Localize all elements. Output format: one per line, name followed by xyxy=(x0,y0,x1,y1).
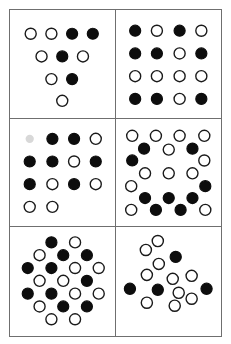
open-dot xyxy=(69,156,80,167)
open-dot xyxy=(46,314,57,325)
open-dot xyxy=(163,167,174,178)
open-dot xyxy=(169,300,180,311)
filled-dot xyxy=(195,48,206,59)
figure-root xyxy=(0,0,231,344)
filled-dot xyxy=(126,155,137,166)
open-dot xyxy=(139,167,150,178)
panel-top-right[interactable] xyxy=(116,10,222,119)
filled-dot xyxy=(129,25,140,36)
filled-dot xyxy=(22,288,33,299)
filled-dot xyxy=(81,250,92,261)
filled-dot xyxy=(87,28,98,39)
filled-dot xyxy=(46,237,57,248)
filled-dot xyxy=(139,192,150,203)
open-dot xyxy=(173,288,184,299)
open-dot xyxy=(198,130,209,141)
open-dot xyxy=(174,93,185,104)
panel-top-right-dots xyxy=(116,10,222,118)
filled-dot xyxy=(24,156,35,167)
filled-dot xyxy=(195,93,206,104)
open-dot xyxy=(195,25,206,36)
open-dot xyxy=(36,51,47,62)
filled-dot xyxy=(199,180,210,191)
open-dot xyxy=(46,74,57,85)
open-dot xyxy=(141,297,152,308)
filled-dot xyxy=(170,252,181,263)
open-dot xyxy=(93,288,104,299)
filled-dot xyxy=(163,192,174,203)
filled-dot xyxy=(151,93,162,104)
filled-dot xyxy=(186,143,197,154)
filled-dot xyxy=(124,284,135,295)
filled-dot xyxy=(152,285,163,296)
filled-dot xyxy=(58,250,69,261)
open-dot xyxy=(57,95,68,106)
filled-dot xyxy=(58,301,69,312)
filled-dot xyxy=(90,156,101,167)
open-dot xyxy=(151,71,162,82)
filled-dot xyxy=(67,74,78,85)
filled-dot xyxy=(186,192,197,203)
filled-dot xyxy=(47,133,58,144)
filled-dot xyxy=(150,204,161,215)
open-dot xyxy=(186,271,197,282)
panel-top-left[interactable] xyxy=(10,10,116,119)
open-dot xyxy=(90,133,101,144)
open-dot xyxy=(70,237,81,248)
open-dot xyxy=(24,201,35,212)
open-dot xyxy=(125,180,136,191)
filled-dot xyxy=(81,301,92,312)
open-dot xyxy=(140,245,151,256)
open-dot xyxy=(70,263,81,274)
filled-dot xyxy=(57,51,68,62)
filled-dot xyxy=(151,48,162,59)
panel-bottom-left[interactable] xyxy=(10,227,116,336)
open-dot xyxy=(70,314,81,325)
filled-dot xyxy=(22,263,33,274)
open-dot xyxy=(125,204,136,215)
open-dot xyxy=(34,301,45,312)
filled-dot xyxy=(200,284,211,295)
open-dot xyxy=(150,130,161,141)
panel-middle-right[interactable] xyxy=(116,119,222,228)
filled-dot xyxy=(46,263,57,274)
open-dot xyxy=(174,71,185,82)
open-dot xyxy=(195,71,206,82)
open-dot xyxy=(126,130,137,141)
open-dot xyxy=(174,130,185,141)
panel-top-left-dots xyxy=(10,10,115,118)
open-dot xyxy=(77,51,88,62)
filled-dot xyxy=(67,28,78,39)
open-dot xyxy=(90,178,101,189)
open-dot xyxy=(34,276,45,287)
filled-dot xyxy=(69,133,80,144)
open-dot xyxy=(70,288,81,299)
open-dot xyxy=(199,204,210,215)
panel-middle-left[interactable] xyxy=(10,119,116,228)
open-dot xyxy=(129,71,140,82)
filled-dot xyxy=(24,178,35,189)
filled-dot xyxy=(174,25,185,36)
open-dot xyxy=(186,167,197,178)
filled-dot xyxy=(47,156,58,167)
open-dot xyxy=(151,25,162,36)
open-dot xyxy=(167,274,178,285)
panel-middle-right-dots xyxy=(116,119,222,227)
open-dot xyxy=(46,28,57,39)
open-dot xyxy=(47,201,58,212)
panel-bottom-right-dots xyxy=(116,227,222,336)
filled-dot xyxy=(81,276,92,287)
filled-dot xyxy=(175,204,186,215)
open-dot xyxy=(47,178,58,189)
open-dot xyxy=(163,144,174,155)
open-dot xyxy=(198,155,209,166)
open-dot xyxy=(34,250,45,261)
filled-dot xyxy=(129,93,140,104)
open-dot xyxy=(186,294,197,305)
panel-bottom-right[interactable] xyxy=(116,227,222,336)
filled-dot xyxy=(69,178,80,189)
filled-dot xyxy=(46,288,57,299)
panel-middle-left-dots xyxy=(10,119,115,227)
panel-bottom-left-dots xyxy=(10,227,115,336)
open-dot xyxy=(141,270,152,281)
